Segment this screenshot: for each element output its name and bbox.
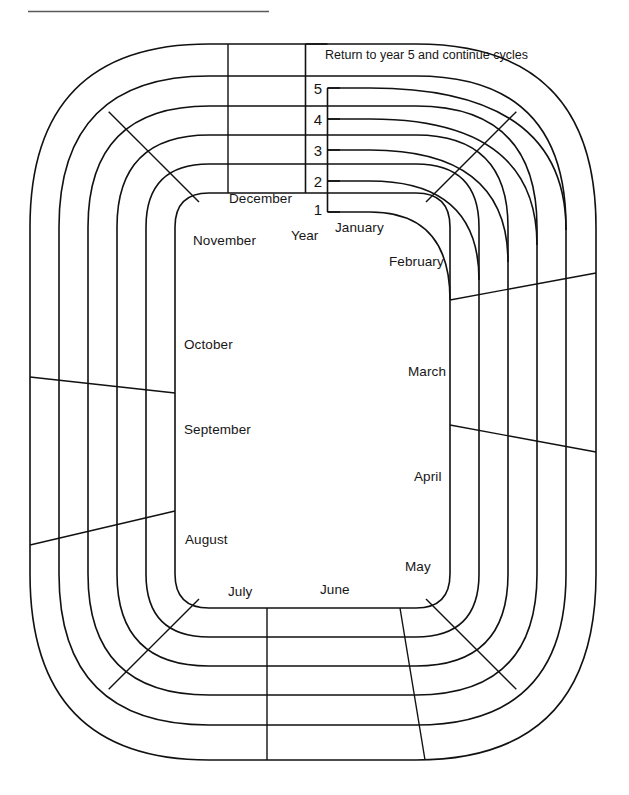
month-label-may: May: [405, 560, 431, 574]
year-tick-label-5: 5: [310, 81, 326, 96]
month-label-march: March: [408, 365, 446, 379]
year-tick-label-3: 3: [310, 143, 326, 158]
month-divider-aug-sep: [30, 511, 175, 545]
month-label-january: January: [335, 221, 384, 235]
year-tick-label-1: 1: [310, 202, 326, 217]
month-label-february: February: [389, 255, 444, 269]
month-label-december: December: [229, 192, 292, 206]
month-label-november: November: [193, 234, 256, 248]
year-tick-label-2: 2: [310, 174, 326, 189]
ring-boundary-3: [88, 106, 537, 695]
month-divider-may-jun: [400, 608, 425, 760]
month-label-august: August: [185, 533, 228, 547]
month-label-april: April: [414, 470, 442, 484]
diagram-canvas: Return to year 5 and continue cycles 5 4…: [0, 0, 629, 795]
year-tick-label-4: 4: [310, 112, 326, 127]
spiral-band-year-3: [328, 150, 509, 262]
month-label-october: October: [184, 338, 233, 352]
month-label-september: September: [184, 423, 251, 437]
month-label-june: June: [320, 583, 350, 597]
year-axis-label: Year: [291, 229, 318, 243]
month-label-july: July: [228, 585, 252, 599]
month-divider-sep-oct: [30, 377, 175, 393]
return-note-label: Return to year 5 and continue cycles: [325, 49, 528, 62]
month-divider-feb-mar: [450, 273, 596, 300]
month-divider-mar-apr: [450, 425, 596, 452]
